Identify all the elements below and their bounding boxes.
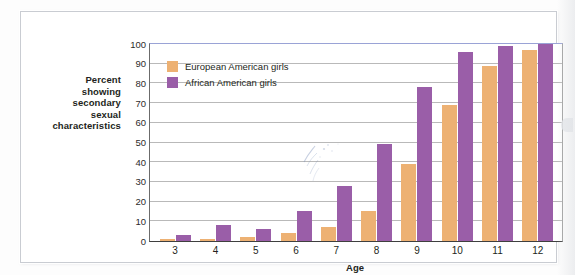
bar-european-american-age-11 — [482, 66, 497, 241]
x-axis-title: Age — [149, 262, 561, 273]
legend-item-african: African American girls — [167, 77, 289, 88]
bar-african-american-age-10 — [458, 52, 473, 241]
bar-group: 7 — [316, 44, 356, 241]
x-axis-tick-label: 3 — [172, 246, 178, 256]
bar-european-american-age-10 — [442, 105, 457, 241]
bar-european-american-age-12 — [522, 50, 537, 241]
bar-european-american-age-8 — [361, 211, 376, 241]
y-axis-tick-label: 10 — [135, 217, 146, 227]
bar-african-american-age-12 — [538, 44, 553, 241]
legend-label: European American girls — [185, 62, 289, 72]
bar-african-american-age-6 — [297, 211, 312, 241]
x-axis-tick-label: 10 — [452, 246, 463, 256]
y-axis-title-line: characteristics — [27, 120, 121, 132]
x-axis-tick-label: 8 — [374, 246, 380, 256]
bar-african-american-age-3 — [176, 235, 191, 241]
y-axis-tick-label: 0 — [141, 236, 146, 246]
x-axis-tick-label: 6 — [293, 246, 299, 256]
bar-african-american-age-8 — [377, 144, 392, 241]
bar-european-american-age-3 — [160, 239, 175, 241]
y-axis-tick-label: 100 — [130, 39, 146, 49]
chart-legend: European American girlsAfrican American … — [167, 61, 289, 88]
y-axis-tick-label: 70 — [135, 98, 146, 108]
bar-african-american-age-9 — [417, 87, 432, 241]
bar-european-american-age-9 — [401, 164, 416, 241]
bar-group: 12 — [518, 44, 558, 241]
bar-european-american-age-6 — [281, 233, 296, 241]
legend-swatch-icon — [167, 77, 178, 88]
y-axis-title-line: sexual — [27, 109, 121, 121]
legend-label: African American girls — [185, 78, 277, 88]
y-axis-title: Percent showing secondary sexual charact… — [27, 74, 121, 132]
x-axis-tick-label: 7 — [334, 246, 340, 256]
y-axis-tick-label: 40 — [135, 157, 146, 167]
scan-edge-artifact — [561, 118, 573, 132]
bar-european-american-age-7 — [321, 227, 336, 241]
x-axis-tick-label: 11 — [492, 246, 502, 256]
x-axis-tick-label: 4 — [213, 246, 219, 256]
scanned-page-background: Percent showing secondary sexual charact… — [0, 0, 575, 275]
bar-african-american-age-7 — [337, 186, 352, 241]
y-axis-title-line: secondary — [27, 97, 121, 109]
legend-item-european: European American girls — [167, 61, 289, 72]
bar-african-american-age-4 — [216, 225, 231, 241]
bar-european-american-age-4 — [200, 239, 215, 241]
bar-african-american-age-11 — [498, 46, 513, 241]
bar-group: 9 — [397, 44, 437, 241]
bar-group: 10 — [437, 44, 477, 241]
y-axis-tick-label: 30 — [135, 177, 146, 187]
bar-african-american-age-5 — [256, 229, 271, 241]
bar-european-american-age-5 — [240, 237, 255, 241]
x-axis-tick-label: 12 — [532, 246, 543, 256]
figure-frame: Percent showing secondary sexual charact… — [20, 11, 557, 263]
legend-swatch-icon — [167, 61, 178, 72]
bar-group: 11 — [477, 44, 517, 241]
x-axis-tick-label: 9 — [414, 246, 420, 256]
y-axis-tick-label: 50 — [135, 138, 146, 148]
y-axis-tick-label: 90 — [135, 59, 146, 69]
y-axis-title-line: Percent — [27, 74, 121, 86]
y-axis-tick-label: 20 — [135, 197, 146, 207]
bar-group: 8 — [356, 44, 396, 241]
y-axis-title-line: showing — [27, 86, 121, 98]
y-axis-tick-label: 60 — [135, 118, 146, 128]
y-axis-tick-label: 80 — [135, 79, 146, 89]
x-axis-tick-label: 5 — [253, 246, 259, 256]
plot-area: 0102030405060708090100 3456789101112 Eur… — [149, 43, 563, 242]
